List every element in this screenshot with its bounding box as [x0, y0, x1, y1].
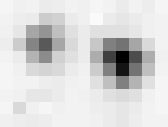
heatmap-cell	[155, 0, 168, 13]
heatmap-cell	[78, 63, 91, 76]
heatmap-cell	[103, 63, 116, 76]
heatmap-cell	[103, 89, 116, 102]
heatmap-cell	[65, 63, 78, 76]
heatmap-cell	[39, 25, 52, 38]
heatmap-cell	[65, 25, 78, 38]
heatmap-cell	[52, 114, 65, 127]
heatmap-cell	[52, 38, 65, 51]
heatmap-cell	[52, 13, 65, 26]
heatmap-cell	[0, 76, 13, 89]
heatmap-cell	[26, 13, 39, 26]
heatmap-cell	[142, 89, 155, 102]
heatmap-cell	[90, 76, 103, 89]
heatmap-cell	[26, 114, 39, 127]
heatmap-cell	[39, 63, 52, 76]
heatmap-cell	[13, 25, 26, 38]
heatmap-cell	[142, 25, 155, 38]
heatmap-cell	[142, 114, 155, 127]
heatmap-cell	[155, 114, 168, 127]
heatmap-cell	[155, 76, 168, 89]
heatmap-cell	[13, 13, 26, 26]
heatmap-cell	[129, 38, 142, 51]
heatmap-cell	[129, 63, 142, 76]
heatmap-cell	[26, 0, 39, 13]
heatmap-cell	[103, 76, 116, 89]
heatmap-cell	[116, 114, 129, 127]
heatmap-cell	[26, 102, 39, 115]
heatmap-cell	[90, 63, 103, 76]
heatmap-cell	[39, 89, 52, 102]
heatmap-cell	[142, 38, 155, 51]
heatmap-cell	[155, 102, 168, 115]
heatmap-cell	[78, 102, 91, 115]
heatmap-cell	[52, 51, 65, 64]
heatmap-cell	[13, 51, 26, 64]
heatmap-cell	[39, 114, 52, 127]
heatmap-cell	[103, 102, 116, 115]
heatmap-cell	[13, 76, 26, 89]
heatmap-cell	[103, 51, 116, 64]
heatmap-cell	[0, 51, 13, 64]
heatmap-cell	[78, 13, 91, 26]
heatmap-cell	[78, 114, 91, 127]
heatmap-cell	[0, 89, 13, 102]
heatmap-cell	[0, 102, 13, 115]
heatmap-cell	[26, 51, 39, 64]
heatmap-cell	[116, 38, 129, 51]
heatmap-cell	[0, 38, 13, 51]
heatmap-cell	[129, 13, 142, 26]
heatmap-cell	[116, 51, 129, 64]
heatmap-cell	[65, 13, 78, 26]
heatmap-cell	[90, 13, 103, 26]
heatmap-cell	[26, 63, 39, 76]
heatmap-cell	[116, 13, 129, 26]
heatmap-cell	[39, 0, 52, 13]
heatmap-cell	[65, 114, 78, 127]
heatmap-cell	[39, 76, 52, 89]
heatmap-cell	[155, 51, 168, 64]
heatmap-cell	[52, 0, 65, 13]
heatmap-cell	[116, 63, 129, 76]
heatmap-cell	[155, 25, 168, 38]
heatmap-cell	[90, 51, 103, 64]
heatmap-cell	[52, 102, 65, 115]
heatmap-cell	[0, 13, 13, 26]
heatmap-cell	[39, 13, 52, 26]
heatmap-cell	[13, 63, 26, 76]
heatmap-cell	[52, 63, 65, 76]
heatmap-cell	[39, 51, 52, 64]
heatmap-cell	[26, 25, 39, 38]
heatmap-cell	[78, 51, 91, 64]
heatmap-cell	[0, 0, 13, 13]
heatmap-cell	[65, 38, 78, 51]
heatmap-cell	[13, 0, 26, 13]
heatmap-cell	[13, 114, 26, 127]
heatmap-cell	[90, 102, 103, 115]
heatmap-cell	[90, 25, 103, 38]
heatmap-cell	[142, 13, 155, 26]
heatmap-cell	[129, 51, 142, 64]
heatmap-cell	[155, 38, 168, 51]
heatmap-cell	[52, 89, 65, 102]
heatmap-cell	[155, 63, 168, 76]
heatmap-cell	[39, 102, 52, 115]
heatmap-cell	[155, 89, 168, 102]
heatmap-cell	[65, 89, 78, 102]
heatmap-cell	[116, 102, 129, 115]
heatmap-cell	[129, 114, 142, 127]
heatmap-cell	[65, 102, 78, 115]
heatmap-grid	[0, 0, 168, 127]
heatmap-cell	[0, 25, 13, 38]
heatmap-cell	[142, 51, 155, 64]
heatmap-cell	[0, 63, 13, 76]
heatmap-cell	[26, 76, 39, 89]
heatmap-cell	[78, 89, 91, 102]
heatmap-cell	[78, 38, 91, 51]
heatmap-cell	[90, 114, 103, 127]
heatmap-cell	[116, 89, 129, 102]
heatmap-cell	[103, 25, 116, 38]
heatmap-cell	[13, 89, 26, 102]
heatmap-cell	[116, 25, 129, 38]
heatmap-cell	[116, 76, 129, 89]
heatmap-cell	[142, 76, 155, 89]
